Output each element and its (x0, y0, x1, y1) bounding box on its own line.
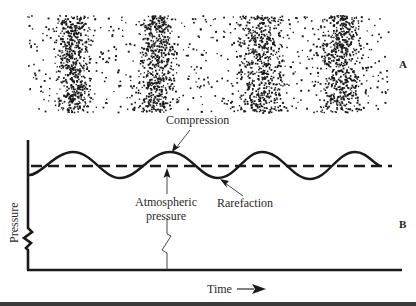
atmospheric-label-line2: pressure (135, 210, 197, 222)
atmospheric-label-line1: Atmospheric (135, 196, 197, 208)
pressure-axes (24, 140, 402, 270)
time-arrow-icon (237, 284, 266, 294)
y-axis (24, 140, 32, 270)
compression-label: Compression (166, 114, 229, 126)
particle-field (27, 15, 389, 114)
sound-wave-diagram (0, 0, 416, 306)
atmospheric-pressure-leader (162, 218, 171, 270)
panel-a-label: A (399, 58, 407, 70)
atmospheric-pressure-label: Atmospheric pressure (135, 196, 197, 222)
x-axis-label: Time (207, 283, 232, 295)
rarefaction-arrow (220, 179, 243, 196)
atmospheric-pressure-arrow (164, 168, 171, 194)
compression-arrow (172, 130, 190, 152)
panel-b-label: B (399, 218, 406, 230)
rarefaction-label: Rarefaction (217, 197, 273, 209)
y-axis-label: Pressure (8, 202, 20, 243)
bottom-rule (0, 302, 416, 306)
